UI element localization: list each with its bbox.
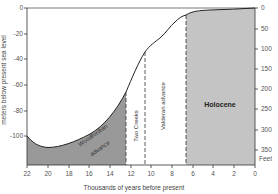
right-tick-label: 50 <box>261 25 269 32</box>
left-ticks <box>24 8 27 136</box>
x-tick-label: 18 <box>65 170 73 177</box>
x-tick-label: 14 <box>106 170 114 177</box>
left-tick-label: 0 <box>19 4 23 11</box>
bottom-tick-labels: 22 20 18 16 14 12 10 8 6 4 2 0 <box>23 170 257 177</box>
left-tick-label: -40 <box>14 55 24 62</box>
x-tick-label: 0 <box>253 170 257 177</box>
x-tick-label: 2 <box>232 170 236 177</box>
left-tick-label: -60 <box>14 81 24 88</box>
woodfordian-region <box>27 92 126 165</box>
x-axis-title: Thousands of years before present <box>84 184 185 192</box>
right-tick-label: 200 <box>261 85 272 92</box>
sea-level-chart: 0 -20 -40 -60 -80 -100 0 50 100 150 200 … <box>0 0 278 194</box>
right-tick-label: 150 <box>261 65 272 72</box>
x-tick-label: 12 <box>127 170 135 177</box>
x-tick-label: 16 <box>85 170 93 177</box>
left-tick-label: -20 <box>14 30 24 37</box>
left-tick-label: -80 <box>14 107 24 114</box>
right-tick-label: 350 <box>261 146 272 153</box>
x-tick-label: 6 <box>191 170 195 177</box>
x-tick-label: 20 <box>44 170 52 177</box>
x-tick-label: 4 <box>211 170 215 177</box>
right-unit-label: Feet <box>259 155 272 162</box>
valderan-label: Valderan advance <box>160 81 166 130</box>
holocene-label: Holocene <box>204 101 236 108</box>
two-creeks-label: Two Creeks <box>133 110 139 142</box>
right-tick-label: 250 <box>261 105 272 112</box>
left-tick-label: -100 <box>10 132 23 139</box>
right-tick-labels: 0 50 100 150 200 250 300 350 Feet <box>259 4 272 162</box>
y-axis-title: meters below present sea level <box>0 35 8 125</box>
right-ticks <box>255 8 258 150</box>
right-tick-label: 300 <box>261 126 272 133</box>
bottom-ticks <box>27 165 255 168</box>
right-tick-label: 100 <box>261 45 272 52</box>
x-tick-label: 22 <box>23 170 31 177</box>
left-tick-labels: 0 -20 -40 -60 -80 -100 <box>10 4 23 139</box>
right-tick-label: 0 <box>261 4 265 11</box>
x-tick-label: 8 <box>170 170 174 177</box>
holocene-region <box>186 8 255 165</box>
x-tick-label: 10 <box>147 170 155 177</box>
